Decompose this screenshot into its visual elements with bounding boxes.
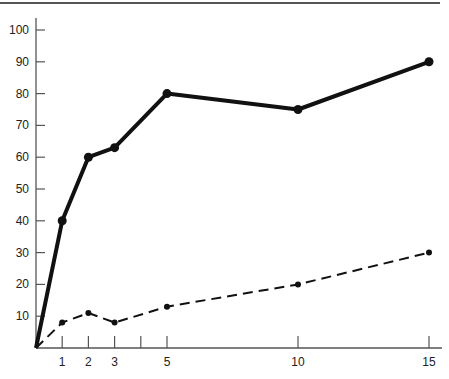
data-point-solid <box>294 105 303 114</box>
y-tick-label: 60 <box>16 150 30 164</box>
data-point-solid <box>163 89 172 98</box>
y-tick-label: 40 <box>16 214 30 228</box>
data-point-solid <box>84 153 93 162</box>
x-tick-label: 1 <box>59 355 66 369</box>
y-tick-label: 90 <box>16 55 30 69</box>
data-point-dashed <box>112 320 118 326</box>
y-tick-label: 20 <box>16 277 30 291</box>
data-point-dashed <box>426 250 432 256</box>
data-point-dashed <box>59 320 65 326</box>
data-point-dashed <box>164 304 170 310</box>
data-point-dashed <box>295 281 301 287</box>
series-line-dashed <box>36 253 429 348</box>
series-group <box>36 57 434 348</box>
x-tick-label: 2 <box>85 355 92 369</box>
x-tick-label: 3 <box>111 355 118 369</box>
y-tick-label: 10 <box>16 309 30 323</box>
data-point-solid <box>425 57 434 66</box>
data-point-dashed <box>85 310 91 316</box>
x-tick-label: 10 <box>291 355 305 369</box>
x-tick-label: 5 <box>164 355 171 369</box>
y-tick-label: 80 <box>16 87 30 101</box>
x-tick-label: 15 <box>422 355 436 369</box>
line-chart: 10203040506070809010012351015 <box>0 0 449 379</box>
y-tick-label: 70 <box>16 118 30 132</box>
data-point-solid <box>58 216 67 225</box>
y-tick-label: 100 <box>9 23 29 37</box>
series-line-solid <box>36 62 429 348</box>
y-tick-label: 50 <box>16 182 30 196</box>
data-point-solid <box>110 143 119 152</box>
y-tick-label: 30 <box>16 246 30 260</box>
